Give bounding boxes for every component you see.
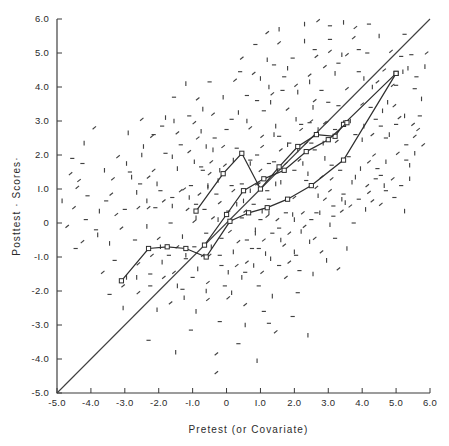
scatter-point [279, 149, 282, 152]
scatter-point [211, 113, 214, 116]
scatter-point [110, 193, 113, 196]
scatter-point [308, 74, 311, 77]
scatter-point [162, 200, 165, 203]
scatter-point [335, 140, 338, 143]
scatter-point [182, 188, 185, 191]
scatter-point [328, 50, 331, 53]
scatter-point [345, 87, 348, 90]
scatter-point [218, 201, 221, 204]
scatter-point [371, 133, 374, 136]
scatter-point [186, 208, 189, 211]
scatter-point [379, 203, 382, 206]
trend-marker [277, 165, 281, 169]
scatter-point [301, 211, 304, 214]
trend-marker [246, 211, 250, 215]
scatter-point [286, 108, 289, 111]
scatter-point [288, 261, 291, 264]
y-tick-label: -4.0 [31, 353, 49, 364]
scatter-point [354, 26, 357, 29]
scatter-point [315, 186, 318, 189]
x-tick-label: -2.0 [150, 397, 168, 408]
scatter-point [111, 177, 114, 180]
scatter-point [233, 79, 236, 82]
scatter-point [208, 172, 211, 175]
trend-marker [326, 138, 330, 142]
y-tick-label: -3.0 [31, 319, 49, 330]
scatter-point [266, 215, 269, 218]
trend-marker [221, 172, 225, 176]
x-tick-label: I.0 [255, 397, 266, 408]
scatter-point [372, 154, 375, 157]
scatter-point [330, 177, 333, 180]
scatter-point [72, 206, 75, 209]
scatter-point [211, 217, 214, 220]
scatter-point [237, 240, 240, 243]
scatter-point [93, 126, 96, 129]
trend-marker [262, 177, 266, 181]
scatter-point [328, 189, 331, 192]
x-tick-label: -4.0 [82, 397, 100, 408]
scatter-point [303, 225, 306, 228]
trend-marker [258, 187, 262, 191]
scatter-point [323, 65, 326, 68]
scatter-point [282, 244, 285, 247]
y-axis-title: Posttest · Scores· [11, 156, 22, 255]
trend-marker [202, 243, 206, 247]
scatter-point [206, 298, 209, 301]
scatter-point [366, 184, 369, 187]
scatter-point [383, 69, 386, 72]
scatter-point [310, 120, 313, 123]
scatter-plot-figure: -5.0-4.0-3.0-2.0-I.00I.02.03.04.05.06.0-… [0, 0, 449, 446]
scatter-point [299, 128, 302, 131]
scatter-point [147, 206, 150, 209]
scatter-point [422, 143, 425, 146]
y-tick-label: 2.0 [35, 149, 49, 160]
x-tick-label: 2.0 [287, 397, 301, 408]
scatter-point [262, 239, 265, 242]
scatter-point [367, 191, 370, 194]
trend-series-group [119, 71, 398, 283]
scatter-point [323, 198, 326, 201]
scatter-point [315, 55, 318, 58]
x-tick-label: 4.0 [355, 397, 369, 408]
scatter-point [76, 186, 79, 189]
scatter-point [81, 240, 84, 243]
scatter-point [252, 72, 255, 75]
scatter-point [245, 261, 248, 264]
trend-marker [265, 206, 269, 210]
scatter-point [249, 126, 252, 129]
trend-marker [341, 158, 345, 162]
scatter-point [227, 296, 230, 299]
scatter-point [284, 276, 287, 279]
scatter-point [228, 230, 231, 233]
scatter-point [65, 225, 68, 228]
scatter-point [260, 135, 263, 138]
y-tick-label: -I.0 [34, 251, 49, 262]
x-tick-label: 5.0 [389, 397, 403, 408]
scatter-point [140, 118, 143, 121]
trend-marker [296, 144, 300, 148]
trend-marker [304, 150, 308, 154]
x-tick-label: 0 [224, 397, 230, 408]
chart-canvas: -5.0-4.0-3.0-2.0-I.00I.02.03.04.05.06.0-… [0, 0, 449, 446]
x-tick-label: 3.0 [321, 397, 335, 408]
scatter-point [196, 137, 199, 140]
scatter-point [371, 200, 374, 203]
scatter-point [271, 92, 274, 95]
scatter-point [162, 276, 165, 279]
scatter-point [349, 205, 352, 208]
scatter-point [179, 189, 182, 192]
scatter-point [425, 52, 428, 55]
scatter-point [188, 150, 191, 153]
scatter-point [337, 268, 340, 271]
scatter-point [259, 169, 262, 172]
scatter-point [150, 254, 153, 257]
y-tick-label: 3.0 [35, 115, 49, 126]
scatter-point [391, 84, 394, 87]
x-tick-label: 6.0 [423, 397, 437, 408]
scatter-point [215, 353, 218, 356]
y-tick-label: 5.0 [35, 47, 49, 58]
scatter-point [215, 371, 218, 374]
scatter-point [260, 271, 263, 274]
trend-marker [241, 189, 245, 193]
